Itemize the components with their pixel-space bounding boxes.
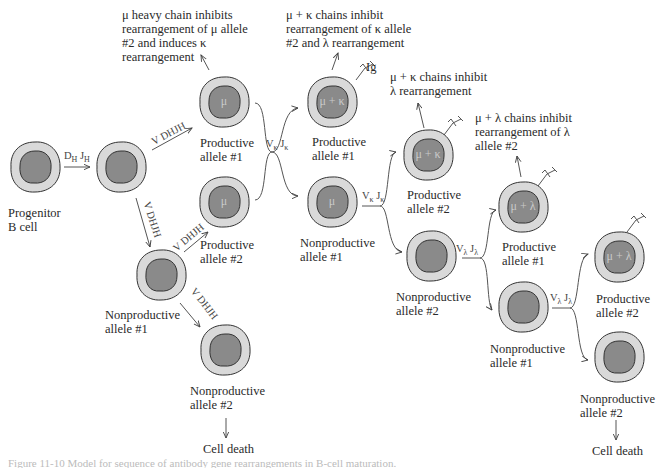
note-line: μ heavy chain inhibits — [122, 8, 248, 22]
cell-content: μ — [197, 194, 251, 209]
cell-heavy-nonproductive-1 — [134, 248, 188, 302]
label-line: allele #1 — [312, 149, 366, 163]
cell-content: μ — [305, 194, 359, 209]
cell-content: μ — [197, 94, 251, 109]
gene-v: V — [550, 292, 558, 303]
cell-death-label: Cell death — [203, 442, 254, 456]
label-line: allele #2 — [407, 202, 461, 216]
label-line: Nonproductive — [580, 392, 655, 406]
label-line: allele #1 — [105, 322, 180, 336]
cell-content: μ + λ — [592, 249, 646, 264]
gene-label-vl-jl-1: Vλ Jλ — [456, 243, 478, 257]
gene-v-sub: κ — [370, 195, 374, 204]
cell-lambda-productive-1: μ + λ — [496, 180, 550, 234]
cell-kappa-productive-2: μ + κ — [401, 128, 455, 182]
label-heavy-productive-1: Productive allele #1 — [200, 136, 254, 164]
label-line: allele #1 — [490, 356, 565, 370]
label-heavy-productive-2: Productive allele #2 — [200, 238, 254, 266]
label-line: allele #1 — [200, 150, 254, 164]
label-line: Productive — [312, 135, 366, 149]
gene-j-sub: λ — [474, 248, 478, 257]
label-heavy-nonproductive-2: Nonproductive allele #2 — [190, 384, 265, 412]
label-line: Nonproductive — [396, 290, 471, 304]
label-kappa-productive-1: Productive allele #1 — [312, 135, 366, 163]
gene-v: V — [266, 138, 274, 149]
label-line: Nonproductive — [490, 342, 565, 356]
note-line: rearrangement of λ — [475, 125, 572, 139]
arrow-layer — [0, 0, 656, 468]
label-line: Nonproductive — [105, 308, 180, 322]
cell-kappa-nonproductive-2 — [404, 229, 458, 283]
gene-j-sub: H — [84, 155, 90, 164]
cell-content: μ + λ — [496, 199, 550, 214]
label-line: Productive — [200, 238, 254, 252]
gene-label-vl-jl-2: Vλ Jλ — [550, 292, 572, 306]
gene-v-sub: λ — [464, 248, 468, 257]
label-lambda-nonproductive-1: Nonproductive allele #1 — [490, 342, 565, 370]
note-line: #2 and λ rearrangement — [286, 36, 411, 50]
label-line: Productive — [596, 292, 650, 306]
gene-v: V — [456, 243, 464, 254]
note-line: rearrangement of κ allele — [286, 22, 411, 36]
gene-label-vk-jk-2: Vκ Jκ — [362, 190, 384, 204]
label-lambda-productive-2: Productive allele #2 — [596, 292, 650, 320]
label-line: allele #2 — [190, 398, 265, 412]
cell-content: μ + κ — [305, 94, 359, 109]
cell-kappa-productive-1: μ + κ — [305, 75, 359, 129]
gene-j-sub: κ — [380, 195, 384, 204]
gene-label-dh-jh: DH JH — [64, 150, 90, 164]
label-line: Productive — [200, 136, 254, 150]
gene-v-sub: λ — [558, 297, 562, 306]
note-line: #2 and induces κ — [122, 36, 248, 50]
label-line: allele #2 — [396, 304, 471, 318]
gene-d-sub: H — [72, 155, 78, 164]
label-line: allele #1 — [502, 254, 556, 268]
cell-after-dj — [94, 140, 148, 194]
label-kappa-nonproductive-2: Nonproductive allele #2 — [396, 290, 471, 318]
label-kappa-nonproductive-1: Nonproductive allele #1 — [300, 236, 375, 264]
label-heavy-nonproductive-1: Nonproductive allele #1 — [105, 308, 180, 336]
b-cell-rearrangement-diagram: Progenitor B cell μ Productive allele #1… — [0, 0, 656, 468]
label-lambda-nonproductive-2: Nonproductive allele #2 — [580, 392, 655, 420]
label-line: allele #2 — [580, 406, 655, 420]
note-mu-lambda: μ + λ chains inhibit rearrangement of λ … — [475, 111, 572, 153]
gene-j-sub: λ — [568, 297, 572, 306]
label-lambda-productive-1: Productive allele #1 — [502, 240, 556, 268]
gene-j-sub: κ — [284, 143, 288, 152]
note-line: rearrangement of μ allele — [122, 22, 248, 36]
cell-lambda-nonproductive-2 — [592, 330, 646, 384]
note-line: allele #2 — [475, 139, 572, 153]
note-line: μ + κ chains inhibit — [286, 8, 411, 22]
label-line: Nonproductive — [190, 384, 265, 398]
label-progenitor: Progenitor B cell — [8, 206, 61, 234]
gene-d: D — [64, 150, 72, 161]
note-mu-kappa-1: μ + κ chains inhibit rearrangement of κ … — [286, 8, 411, 50]
gene-v-sub: κ — [274, 143, 278, 152]
note-mu-heavy-chain: μ heavy chain inhibits rearrangement of … — [122, 8, 248, 64]
cell-content: μ + κ — [401, 147, 455, 162]
cell-lambda-nonproductive-1 — [496, 280, 550, 334]
label-line: Productive — [502, 240, 556, 254]
note-line: μ + κ chains inhibit — [390, 70, 487, 84]
cell-lambda-productive-2: μ + λ — [592, 230, 646, 284]
note-line: μ + λ chains inhibit — [475, 111, 572, 125]
figure-caption: Figure 11-10 Model for sequence of antib… — [8, 456, 396, 468]
note-line: λ rearrangement — [390, 84, 487, 98]
ig-label: Ig — [366, 60, 376, 74]
cell-heavy-productive-1: μ — [197, 75, 251, 129]
gene-label-vk-jk-1: Vκ Jκ — [266, 138, 288, 152]
label-line: Progenitor — [8, 206, 61, 220]
cell-heavy-productive-2: μ — [197, 175, 251, 229]
gene-v: V — [362, 190, 370, 201]
label-line: Productive — [407, 188, 461, 202]
cell-progenitor — [8, 140, 62, 194]
cell-kappa-nonproductive-1: μ — [305, 175, 359, 229]
label-line: allele #2 — [596, 306, 650, 320]
note-line: rearrangement — [122, 50, 248, 64]
label-kappa-productive-2: Productive allele #2 — [407, 188, 461, 216]
label-line: allele #2 — [200, 252, 254, 266]
label-line: Nonproductive — [300, 236, 375, 250]
label-line: allele #1 — [300, 250, 375, 264]
cell-death-label-2: Cell death — [592, 444, 643, 458]
cell-heavy-nonproductive-2 — [198, 323, 252, 377]
